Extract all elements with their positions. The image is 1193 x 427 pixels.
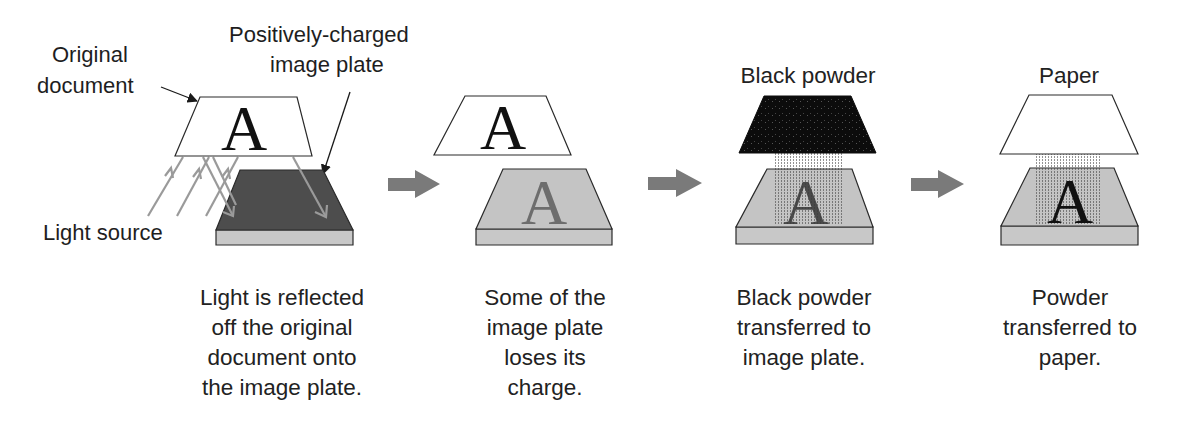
- caption-line: document onto: [208, 345, 357, 370]
- caption-line: transferred to: [1003, 315, 1137, 340]
- label-paper: Paper: [1039, 63, 1100, 88]
- document-letter: A: [480, 92, 526, 163]
- charged-plate: [216, 170, 353, 230]
- label-light-source: Light source: [43, 220, 163, 245]
- caption-line: charge.: [507, 375, 582, 400]
- latent-image-letter: A: [521, 167, 567, 238]
- flow-arrow-icon: [388, 170, 440, 198]
- label-black-powder: Black powder: [740, 63, 876, 88]
- caption-step-1: Light is reflected off the original docu…: [200, 285, 364, 400]
- panel-step-3: Black powder A: [736, 63, 876, 244]
- panel-step-4: Paper A: [1000, 63, 1138, 245]
- caption-line: Some of the: [484, 285, 605, 310]
- caption-line: Light is reflected: [200, 285, 364, 310]
- paper-sheet: [1000, 95, 1138, 154]
- caption-step-2: Some of the image plate loses its charge…: [484, 285, 605, 400]
- document-letter: A: [221, 93, 267, 164]
- caption-line: off the original: [212, 315, 353, 340]
- pointer-arrow-icon: [323, 92, 350, 174]
- caption-line: paper.: [1039, 345, 1102, 370]
- panel-step-2: A A: [434, 92, 612, 245]
- caption-step-4: Powder transferred to paper.: [1003, 285, 1137, 370]
- label-original-document-line2: document: [37, 73, 134, 98]
- label-plate-line1: Positively-charged: [229, 22, 409, 47]
- label-original-document-line1: Original: [52, 42, 128, 67]
- caption-line: loses its: [504, 345, 585, 370]
- flow-arrow-icon: [648, 169, 702, 197]
- caption-line: image plate: [487, 315, 603, 340]
- flow-arrow-icon: [911, 170, 964, 198]
- photocopier-diagram: Original document Positively-charged ima…: [0, 0, 1193, 427]
- caption-line: Powder: [1032, 285, 1109, 310]
- pointer-arrow-icon: [161, 87, 197, 101]
- caption-line: transferred to: [737, 315, 871, 340]
- label-plate-line2: image plate: [270, 52, 384, 77]
- caption-line: the image plate.: [202, 375, 362, 400]
- caption-step-3: Black powder transferred to image plate.: [736, 285, 872, 370]
- transferred-letter: A: [1047, 166, 1093, 237]
- powder-stream: [773, 153, 843, 225]
- black-powder: [739, 96, 876, 153]
- panel-step-1: Original document Positively-charged ima…: [37, 22, 409, 245]
- caption-line: image plate.: [743, 345, 866, 370]
- plate-side: [216, 230, 353, 245]
- caption-line: Black powder: [736, 285, 872, 310]
